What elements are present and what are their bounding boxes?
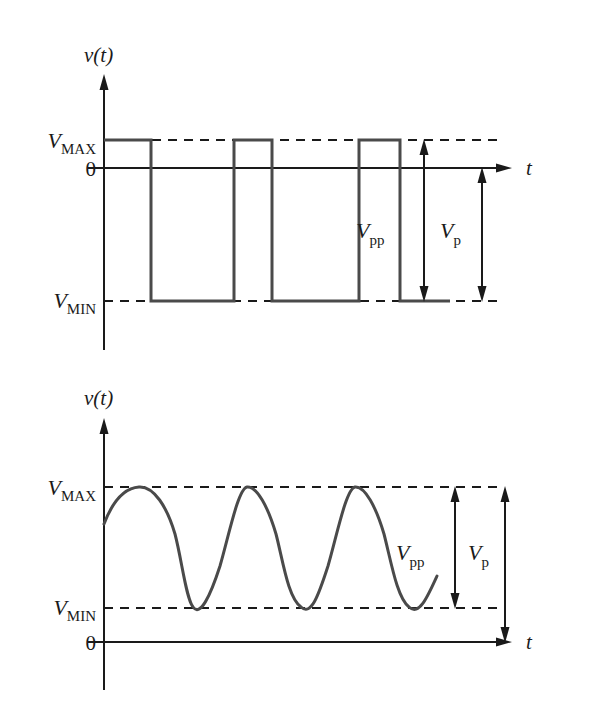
square-y-axis [100, 74, 109, 350]
square-zero-label: 0 [86, 157, 97, 181]
square-waveform-trace [104, 140, 450, 301]
sine-x-axis-label: t [526, 630, 533, 654]
sine-vpp-dimension [451, 486, 460, 609]
sine-vmin-label: VMIN [53, 595, 96, 624]
sine-zero-label: 0 [86, 631, 97, 655]
sine-wave-plot: v(t) VMAX VMIN 0 t Vpp [48, 386, 533, 690]
sine-vp-label: Vp [468, 540, 489, 570]
square-y-axis-label: v(t) [84, 43, 113, 67]
square-wave-plot: v(t) VMAX 0 VMIN t Vpp [48, 43, 533, 350]
square-vp-label: Vp [440, 218, 461, 248]
square-x-axis-label: t [526, 156, 533, 180]
sine-y-axis [100, 418, 109, 690]
sine-vp-dimension [501, 486, 510, 643]
square-vpp-dimension [420, 139, 429, 302]
sine-y-axis-label: v(t) [84, 386, 113, 410]
sine-x-axis [88, 638, 512, 647]
square-vp-dimension [478, 167, 487, 302]
sine-waveform-trace [104, 487, 437, 610]
square-vmax-label: VMAX [48, 128, 97, 157]
sine-vpp-label: Vpp [396, 540, 424, 570]
square-vmin-label: VMIN [53, 288, 96, 317]
sine-vmax-label: VMAX [48, 475, 97, 504]
waveform-figure: v(t) VMAX 0 VMIN t Vpp [0, 0, 589, 712]
